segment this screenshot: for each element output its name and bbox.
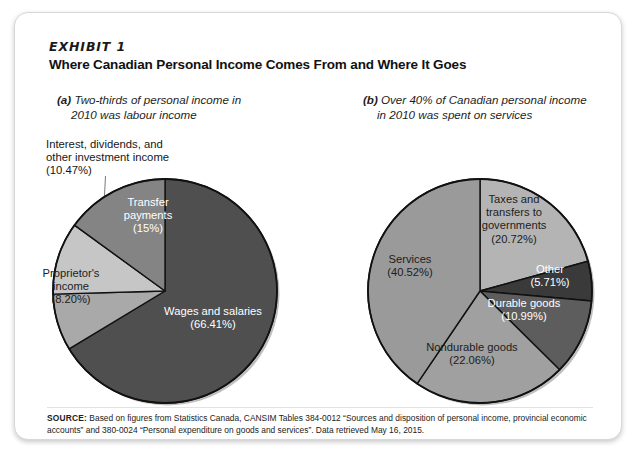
panel-a-caption: (a) Two-thirds of personal income in 201… xyxy=(57,93,307,122)
pie-chart-sources: Wages and salaries (66.41%)Proprietor's … xyxy=(45,171,285,411)
pie-svg xyxy=(45,171,285,411)
pie-svg xyxy=(360,171,600,411)
exhibit-label: EXHIBIT 1 xyxy=(49,39,126,54)
panel-a-caption-line1: Two-thirds of personal income in xyxy=(74,93,241,106)
pie-chart-expenditure: Taxes and transfers to governments (20.7… xyxy=(360,171,600,411)
source-label: SOURCE: xyxy=(47,413,87,423)
source-note: SOURCE: Based on figures from Statistics… xyxy=(47,413,593,436)
panel-a-caption-line2: 2010 was labour income xyxy=(57,108,307,123)
panel-a-tag: (a) xyxy=(57,93,71,106)
source-text: Based on figures from Statistics Canada,… xyxy=(47,413,587,435)
source-divider xyxy=(47,407,593,408)
panel-b-tag: (b) xyxy=(363,93,378,106)
exhibit-page: EXHIBIT 1 Where Canadian Personal Income… xyxy=(0,0,638,459)
panel-b-caption-line1: Over 40% of Canadian personal income xyxy=(381,93,587,106)
panel-b-caption-line2: in 2010 was spent on services xyxy=(363,108,613,123)
exhibit-card: EXHIBIT 1 Where Canadian Personal Income… xyxy=(14,12,622,440)
panel-b-caption: (b) Over 40% of Canadian personal income… xyxy=(363,93,613,122)
exhibit-title: Where Canadian Personal Income Comes Fro… xyxy=(49,57,466,72)
